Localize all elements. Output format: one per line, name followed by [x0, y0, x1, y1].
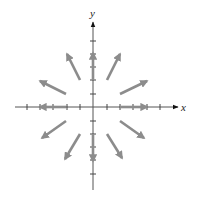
vector-ssw-arrow-icon — [65, 134, 80, 159]
vector-wsw-arrow-icon — [42, 121, 66, 138]
axes: x y — [15, 7, 186, 190]
vector-ene-arrow-icon — [120, 81, 147, 94]
vector-sse-arrow-icon — [107, 134, 122, 158]
x-axis-label: x — [180, 101, 186, 113]
vector-ese-arrow-icon — [120, 121, 144, 138]
vector-wnw-arrow-icon — [40, 81, 66, 94]
y-axis-label: y — [89, 7, 95, 19]
vector-nne-arrow-icon — [107, 54, 120, 80]
vector-field-diagram: x y — [0, 0, 199, 199]
vector-nnw-arrow-icon — [67, 54, 80, 80]
